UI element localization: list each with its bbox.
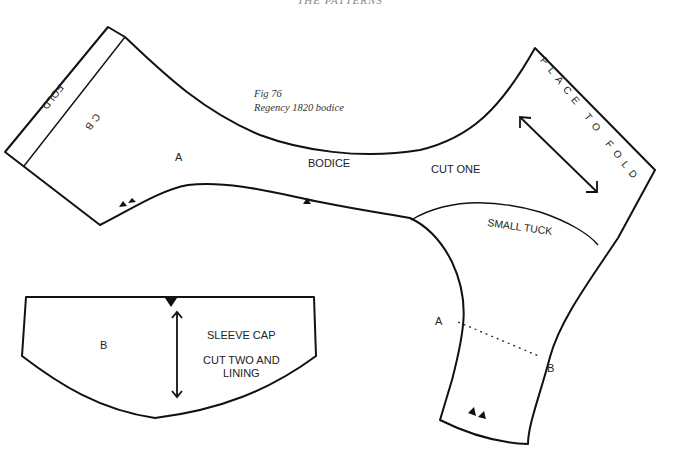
figure-title: Regency 1820 bodice [253, 102, 344, 113]
running-header: THE PATTERNS [297, 0, 383, 6]
sleeve-cap-name-label: SLEEVE CAP [207, 329, 275, 341]
sleeve-match-b-label: B [547, 362, 554, 374]
lining-label: LINING [223, 367, 260, 379]
cut-two-label: CUT TWO AND [203, 354, 280, 366]
pattern-diagram: THE PATTERNS FOLD C B PLACE TO FOLD [0, 0, 683, 465]
cut-one-label: CUT ONE [431, 163, 480, 175]
bodice-name-label: BODICE [308, 157, 350, 169]
bodice-piece-letter: A [175, 151, 183, 163]
figure-number: Fig 76 [253, 88, 282, 99]
sleeve-cap-piece: B SLEEVE CAP CUT TWO AND LINING [22, 297, 316, 418]
sleeve-cap-piece-letter: B [100, 339, 107, 351]
sleeve-match-a-label: A [435, 315, 443, 327]
